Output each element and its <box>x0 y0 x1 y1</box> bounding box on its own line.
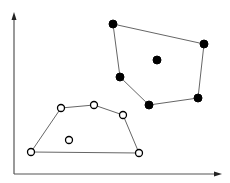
filled-cluster <box>109 20 208 109</box>
open-cluster-point <box>58 105 65 112</box>
filled-cluster-point <box>200 40 208 48</box>
filled-cluster-point <box>116 73 124 81</box>
y-axis-arrow-icon <box>12 12 17 20</box>
open-cluster-point <box>66 137 73 144</box>
open-cluster-point <box>91 102 98 109</box>
filled-cluster-point <box>153 56 161 64</box>
clusters <box>28 20 209 157</box>
filled-cluster-hull <box>113 24 204 105</box>
filled-cluster-point <box>109 20 117 28</box>
x-axis-arrow-icon <box>214 172 222 177</box>
filled-cluster-point <box>145 101 153 109</box>
open-cluster-point <box>136 150 143 157</box>
cluster-diagram <box>0 0 230 183</box>
filled-cluster-point <box>194 94 202 102</box>
open-cluster-point <box>120 112 127 119</box>
open-cluster <box>28 102 143 157</box>
open-cluster-point <box>28 149 35 156</box>
